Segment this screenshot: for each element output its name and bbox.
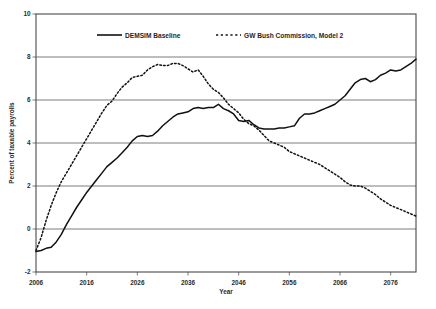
y-tick-label: 4 [27, 139, 31, 146]
x-tick-label: 2006 [29, 279, 44, 286]
y-tick-label: 0 [27, 225, 31, 232]
x-tick-label: 2026 [130, 279, 145, 286]
y-axis-tick-labels: -20246810 [23, 10, 31, 275]
x-tick-label: 2046 [232, 279, 247, 286]
y-tick-label: 2 [27, 182, 31, 189]
x-tick-label: 2036 [181, 279, 196, 286]
x-tick-label: 2016 [80, 279, 95, 286]
tickmark-group [33, 14, 391, 276]
gridline-group [36, 57, 416, 229]
legend-label-2: GW Bush Commission, Model 2 [244, 32, 344, 40]
x-axis-tick-labels: 20062016202620362046205620662076 [29, 279, 398, 286]
series-line-2 [36, 63, 416, 250]
chart-legend: DEMSIM BaselineGW Bush Commission, Model… [97, 32, 344, 40]
data-series-group [36, 59, 416, 251]
series-line-1 [36, 59, 416, 251]
x-tick-label: 2076 [384, 279, 399, 286]
y-axis-title: Percent of taxable payrolls [8, 102, 16, 184]
y-tick-label: -2 [25, 268, 31, 275]
chart-container: -20246810 200620162026203620462056206620… [0, 0, 436, 309]
y-tick-label: 8 [27, 53, 31, 60]
x-axis-title: Year [219, 288, 233, 295]
x-tick-label: 2056 [282, 279, 297, 286]
x-tick-label: 2066 [333, 279, 348, 286]
y-tick-label: 10 [23, 10, 31, 17]
chart-plot: -20246810 200620162026203620462056206620… [0, 0, 436, 309]
legend-label-1: DEMSIM Baseline [125, 32, 181, 39]
y-tick-label: 6 [27, 96, 31, 103]
